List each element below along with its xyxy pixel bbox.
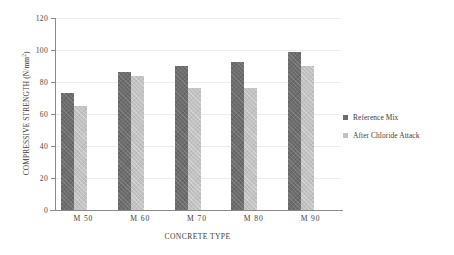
legend-label: Reference Mix: [353, 113, 398, 122]
y-axis-title-text: COMPRESSIVE STRENGTH (N/mm: [22, 57, 31, 175]
bar[interactable]: [231, 62, 244, 210]
y-axis-tick: [51, 114, 55, 115]
bars-layer: [56, 18, 340, 210]
legend-swatch-icon: [343, 115, 348, 120]
x-axis-line: [50, 210, 343, 211]
y-axis-tick-label: 100: [36, 46, 48, 55]
legend-label: After Chloride Attack: [353, 131, 420, 140]
bar[interactable]: [74, 106, 87, 210]
y-axis-tick-label: 20: [40, 174, 48, 183]
y-axis-tick: [51, 18, 55, 19]
y-axis-tick-label: 40: [40, 142, 48, 151]
y-axis-tick: [51, 210, 55, 211]
plot-area: 020406080100120 M 50M 60M 70M 80M 90: [55, 18, 340, 210]
bar-chart: COMPRESSIVE STRENGTH (N/mm2) 02040608010…: [0, 0, 454, 255]
y-axis-tick: [51, 50, 55, 51]
legend-item[interactable]: After Chloride Attack: [343, 131, 451, 140]
bar[interactable]: [175, 66, 188, 210]
y-axis-title-suffix: ): [22, 51, 31, 54]
bar[interactable]: [118, 72, 131, 210]
x-axis-tick-label: M 60: [112, 214, 169, 223]
bar[interactable]: [61, 93, 74, 210]
bar-group: [113, 18, 170, 210]
bar[interactable]: [131, 76, 144, 210]
legend-item[interactable]: Reference Mix: [343, 113, 451, 122]
y-axis-tick-label: 0: [44, 206, 48, 215]
bar[interactable]: [244, 88, 257, 210]
y-axis-tick: [51, 178, 55, 179]
y-axis-tick-label: 120: [36, 14, 48, 23]
y-axis-title-superscript: 2: [21, 54, 27, 57]
x-axis-title: CONCRETE TYPE: [55, 232, 340, 241]
bar-group: [170, 18, 227, 210]
bar-group: [226, 18, 283, 210]
legend: Reference MixAfter Chloride Attack: [343, 113, 451, 149]
bar-group: [56, 18, 113, 210]
x-axis-tick-label: M 90: [282, 214, 339, 223]
legend-swatch-icon: [343, 133, 348, 138]
bar[interactable]: [188, 88, 201, 210]
x-axis-tick-label: M 80: [225, 214, 282, 223]
y-axis-title: COMPRESSIVE STRENGTH (N/mm2): [21, 13, 31, 213]
x-axis-tick-label: M 50: [55, 214, 112, 223]
y-axis-tick-label: 60: [40, 110, 48, 119]
bar[interactable]: [301, 66, 314, 210]
y-axis-tick: [51, 82, 55, 83]
y-axis-tick-label: 80: [40, 78, 48, 87]
bar-group: [283, 18, 340, 210]
y-axis-tick: [51, 146, 55, 147]
bar[interactable]: [288, 52, 301, 210]
x-axis-tick-label: M 70: [169, 214, 226, 223]
